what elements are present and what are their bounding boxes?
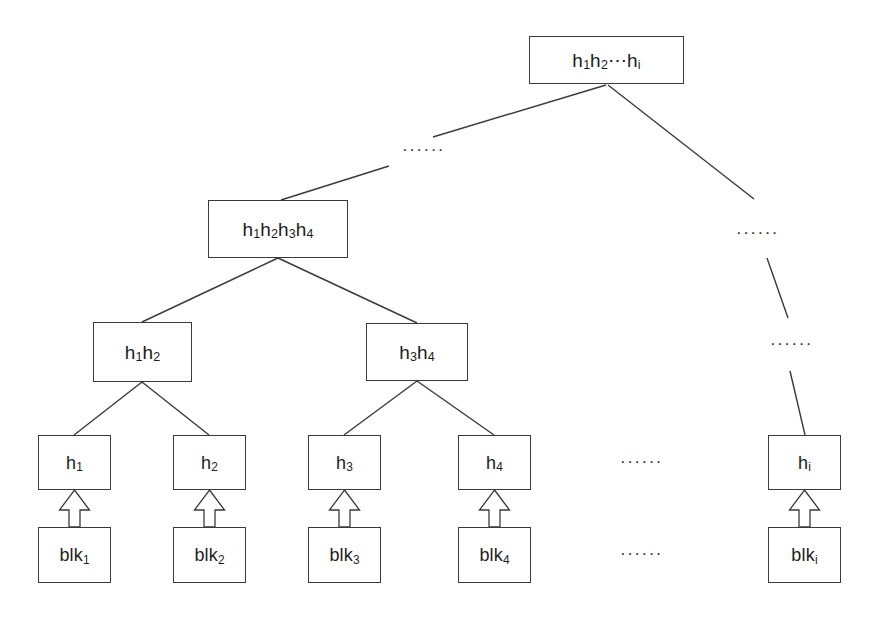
node-label-h1: h1 xyxy=(66,454,83,472)
node-label-blk4: blk4 xyxy=(479,546,509,564)
block-arrow xyxy=(195,490,225,527)
block-arrow xyxy=(60,490,90,527)
node-n12: h1h2 xyxy=(93,322,192,382)
node-label-n34: h3h4 xyxy=(399,343,435,362)
node-label-blki: blki xyxy=(791,546,817,564)
node-label-n1234: h1h2h3h4 xyxy=(242,220,313,239)
node-h4: h4 xyxy=(458,435,531,490)
tree-edge xyxy=(608,85,754,199)
node-label-h3: h3 xyxy=(336,454,353,472)
node-blk3: blk3 xyxy=(308,527,381,583)
tree-edges xyxy=(74,85,805,435)
node-label-blk3: blk3 xyxy=(329,546,359,564)
ellipsis-left: ······ xyxy=(402,141,445,158)
node-blk4: blk4 xyxy=(458,527,531,583)
node-h2: h2 xyxy=(173,435,246,490)
node-blk1: blk1 xyxy=(38,527,111,583)
block-arrow xyxy=(480,490,510,527)
node-blki: blki xyxy=(768,527,841,583)
merkle-tree-diagram: h1h2⋯hih1h2h3h4h1h2h3h4h1h2h3h4hiblk1blk… xyxy=(0,0,874,621)
node-h1: h1 xyxy=(38,435,111,490)
tree-edge xyxy=(142,258,278,322)
node-label-n12: h1h2 xyxy=(125,343,161,362)
node-label-root: h1h2⋯hi xyxy=(572,51,640,70)
node-label-h2: h2 xyxy=(201,454,218,472)
ellipsis-blk-row: ······ xyxy=(620,545,663,562)
node-blk2: blk2 xyxy=(173,527,246,583)
tree-edge xyxy=(790,371,805,435)
node-h3: h3 xyxy=(308,435,381,490)
tree-edge xyxy=(142,382,209,435)
tree-edge xyxy=(74,382,142,435)
node-hi: hi xyxy=(768,435,841,490)
tree-edge xyxy=(344,381,417,435)
block-arrow xyxy=(330,490,360,527)
ellipsis-h-row: ······ xyxy=(620,453,663,470)
ellipsis-right-2: ······ xyxy=(770,335,813,352)
tree-edge xyxy=(281,166,389,200)
tree-edge xyxy=(767,258,788,318)
node-n1234: h1h2h3h4 xyxy=(208,200,348,258)
block-arrows xyxy=(60,490,820,527)
tree-edge xyxy=(417,381,494,435)
node-label-h4: h4 xyxy=(486,454,503,472)
node-label-blk1: blk1 xyxy=(59,546,89,564)
tree-edge xyxy=(433,85,606,137)
block-arrow xyxy=(790,490,820,527)
ellipsis-right-1: ······ xyxy=(736,224,779,241)
tree-edge xyxy=(278,258,417,323)
node-label-blk2: blk2 xyxy=(194,546,224,564)
edge-layer xyxy=(0,0,874,621)
node-root: h1h2⋯hi xyxy=(529,36,684,84)
node-label-hi: hi xyxy=(798,454,811,472)
node-n34: h3h4 xyxy=(366,323,468,381)
